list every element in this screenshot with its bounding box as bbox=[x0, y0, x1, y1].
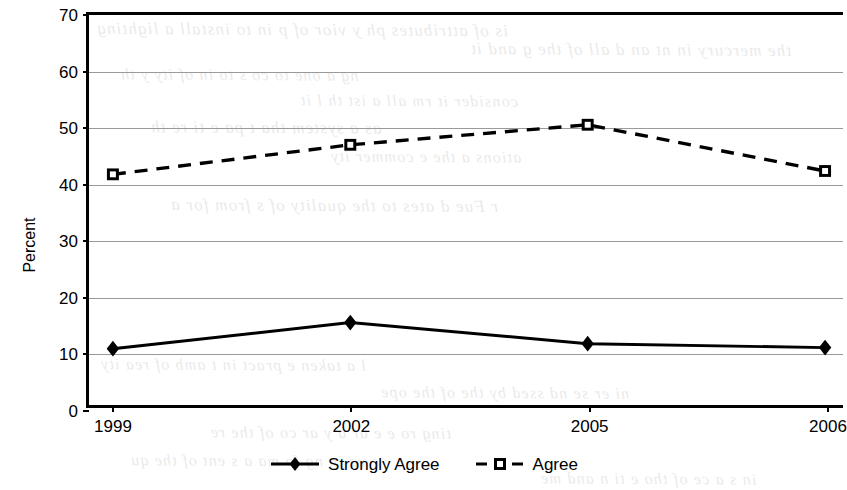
legend-label: Agree bbox=[533, 456, 578, 473]
y-axis-title: Percent bbox=[21, 217, 39, 272]
y-tick-label: 30 bbox=[59, 233, 78, 250]
series-layer bbox=[89, 15, 843, 405]
y-tick-label: 50 bbox=[59, 120, 78, 137]
x-tick-mark bbox=[589, 405, 591, 412]
x-tick-label: 2002 bbox=[332, 418, 370, 435]
chart-legend: Strongly AgreeAgree bbox=[0, 455, 847, 473]
x-tick-mark bbox=[350, 405, 352, 412]
legend-entry[interactable]: Strongly Agree bbox=[269, 455, 440, 473]
x-tick-mark bbox=[112, 405, 114, 412]
y-tick-label: 10 bbox=[59, 346, 78, 363]
data-point-marker-diamond bbox=[344, 315, 356, 331]
series-line bbox=[113, 323, 825, 349]
data-point-marker-square bbox=[821, 167, 830, 176]
y-tick-mark bbox=[83, 410, 89, 412]
data-point-marker-diamond bbox=[819, 340, 831, 356]
y-tick-label: 60 bbox=[59, 63, 78, 80]
y-tick-label: 70 bbox=[59, 7, 78, 24]
data-point-marker-diamond bbox=[107, 341, 119, 357]
data-point-marker-diamond bbox=[581, 336, 593, 352]
x-tick-label: 1999 bbox=[94, 418, 132, 435]
plot-area: 706050403020100 1999200220052006 bbox=[86, 12, 843, 408]
data-point-marker-square bbox=[495, 460, 504, 469]
x-tick-mark bbox=[827, 405, 829, 412]
legend-marker-filled-diamond bbox=[269, 455, 321, 473]
legend-label: Strongly Agree bbox=[328, 456, 440, 473]
y-tick-label: 20 bbox=[59, 289, 78, 306]
legend-marker-hollow-square bbox=[474, 455, 526, 473]
x-tick-label: 2006 bbox=[809, 418, 847, 435]
line-chart: Percent 706050403020100 1999200220052006… bbox=[0, 0, 847, 490]
y-tick-label: 0 bbox=[69, 403, 78, 420]
legend-entry[interactable]: Agree bbox=[474, 455, 578, 473]
data-point-marker-square bbox=[346, 140, 355, 149]
data-point-marker-square bbox=[583, 120, 592, 129]
y-tick-label: 40 bbox=[59, 176, 78, 193]
data-point-marker-diamond bbox=[290, 457, 301, 471]
data-point-marker-square bbox=[108, 170, 117, 179]
series-line bbox=[113, 125, 825, 175]
x-tick-label: 2005 bbox=[571, 418, 609, 435]
